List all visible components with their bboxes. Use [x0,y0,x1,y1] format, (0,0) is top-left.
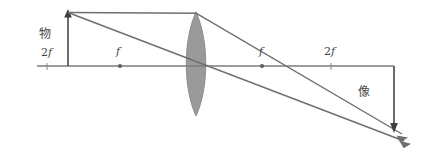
ray-center-arrow-head [399,141,411,148]
double-focal-left-label: 2f [41,47,52,58]
double-focal-left-suffix: f [48,46,52,59]
marker-dot-f-left [118,64,122,68]
double-focal-right-label: 2f [324,46,335,57]
double-focal-right-prefix: 2 [324,45,331,58]
marker-dot-f-right [260,64,264,68]
double-focal-left-prefix: 2 [41,46,48,59]
double-focal-right-suffix: f [331,45,335,58]
focal-left-label: f [116,46,120,57]
focal-right-label: f [259,46,263,57]
optics-ray-diagram: 物 像 2f f f 2f [0,0,425,160]
ray-parallel-incident [68,13,197,14]
ray-through-center [68,13,404,142]
ray-diagram-canvas [0,0,425,160]
image-label: 像 [358,86,370,98]
object-label: 物 [39,28,51,40]
